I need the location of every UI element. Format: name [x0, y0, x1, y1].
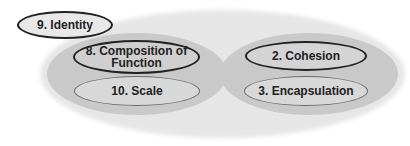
- node-identity: 9. Identity: [17, 11, 113, 39]
- node-cohesion: 2. Cohesion: [245, 41, 367, 71]
- node-label: 3. Encapsulation: [258, 85, 353, 97]
- node-label: 2. Cohesion: [272, 50, 340, 62]
- node-scale: 10. Scale: [74, 76, 200, 106]
- node-label: 8. Composition of Function: [86, 45, 187, 69]
- node-label: 10. Scale: [111, 85, 162, 97]
- node-label: 9. Identity: [37, 19, 93, 31]
- node-label-line2: Function: [111, 56, 162, 70]
- node-encapsulation: 3. Encapsulation: [244, 76, 368, 106]
- node-composition-of-function: 8. Composition of Function: [73, 40, 200, 74]
